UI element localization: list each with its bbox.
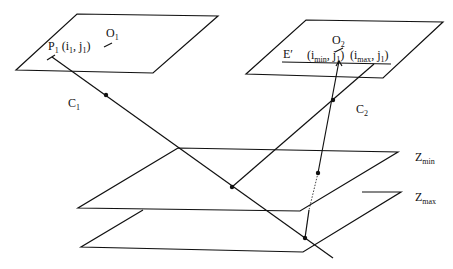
intersection-c2-zmin xyxy=(316,171,320,175)
c2-point xyxy=(331,98,335,102)
o1-label: O1 xyxy=(106,26,119,42)
ray-c2-min-upper xyxy=(318,61,339,173)
intersection-zmax xyxy=(303,236,307,240)
ray-c1 xyxy=(52,57,333,258)
c1-point xyxy=(104,93,108,97)
image-plane-1 xyxy=(16,14,218,73)
c1-label: C1 xyxy=(68,96,80,112)
o1-tick xyxy=(104,43,112,47)
zmin-label: Zmin xyxy=(415,150,435,166)
zmax-label: Zmax xyxy=(415,190,436,206)
e-prime-label: E′ xyxy=(283,47,293,61)
ray-c2-max xyxy=(232,64,374,187)
c2-label: C2 xyxy=(356,102,368,118)
ray-c2-min-lower xyxy=(305,210,309,238)
zmin-plane xyxy=(78,148,398,211)
imax-label: (imax, j1) xyxy=(350,48,388,64)
intersection-zmin-c1 xyxy=(230,185,234,189)
image-plane-2 xyxy=(246,20,443,78)
p1-label: P1 (i1, j1) xyxy=(48,39,90,55)
o2-label: O2 xyxy=(332,33,345,49)
zmax-plane xyxy=(81,192,401,252)
p1-tick xyxy=(47,55,55,60)
epipolar-diagram: P1 (i1, j1) O1 C1 O2 E′ (imin, j1) (imax… xyxy=(0,0,453,269)
